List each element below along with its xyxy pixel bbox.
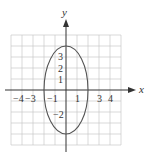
x-axis-arrow-icon (128, 87, 136, 93)
x-tick-label: 3 (97, 93, 102, 104)
x-tick-label: 1 (75, 93, 80, 104)
y-tick-label: 1 (58, 74, 63, 85)
y-tick-label: 3 (58, 51, 63, 62)
x-tick-label: −1 (47, 93, 58, 104)
x-tick-label: 4 (108, 93, 113, 104)
x-tick-label: −3 (25, 93, 36, 104)
y-tick-label: 2 (58, 63, 63, 74)
x-tick-labels: −4 −3 −1 1 3 4 (13, 93, 113, 104)
y-axis-arrow-icon (63, 19, 69, 27)
x-tick-label: −4 (13, 93, 24, 104)
axes (5, 26, 130, 152)
y-tick-label: −2 (53, 109, 64, 120)
ellipse-graph: x y −4 −3 −1 1 3 4 3 2 1 −2 (0, 0, 150, 154)
y-axis-label: y (61, 6, 67, 18)
y-tick-labels: 3 2 1 −2 (53, 51, 64, 120)
x-axis-label: x (138, 83, 144, 95)
